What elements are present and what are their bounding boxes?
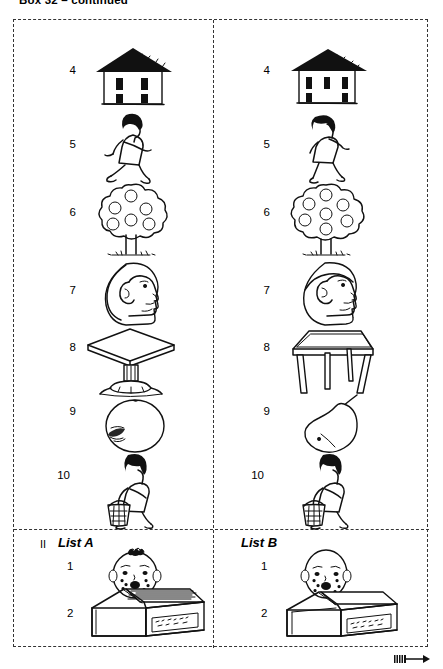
head-profile-icon [96,260,172,330]
list-item: 7 [14,260,213,330]
list-b-label: List B [241,535,277,550]
item-number: 5 [50,138,76,150]
house-icon [92,46,176,108]
item-number: 7 [244,284,270,296]
list-item: 4 [14,46,213,108]
running-woman-icon [100,112,170,184]
item-number: 7 [50,284,76,296]
apple-icon [102,393,168,455]
item-number: 6 [50,206,76,218]
fruit-tree-icon [88,182,174,260]
list-item: 9 [14,393,213,455]
head-profile-icon [293,260,367,330]
list-item: 7 [213,260,412,330]
list-item: 10 [14,451,213,529]
item-number: 4 [50,64,76,76]
woman-with-basket-icon [100,451,176,529]
matchbox-full-icon [86,586,210,644]
list-item: 6 [213,182,412,260]
item-number: 9 [50,405,76,417]
list-item: 10 [213,451,412,529]
section-two-list-a: II List A 1 2 [14,529,213,648]
item-number: 4 [244,64,270,76]
item-number: 10 [238,469,264,481]
list-a-label: List A [58,535,94,550]
fruit-tree-icon [281,182,371,260]
item-number: 6 [244,206,270,218]
continuation-arrow-icon [392,652,432,666]
item-number: 9 [244,405,270,417]
section-roman-numeral: II [40,538,46,550]
house-icon [285,46,371,108]
walking-woman-icon [295,112,365,184]
list-item: 9 [213,393,412,455]
item-number: 5 [244,138,270,150]
item-number: 8 [50,341,76,353]
section-two-list-b: List B 1 2 [213,529,412,648]
woman-with-basket-icon [295,451,371,529]
item-number: 10 [44,469,70,481]
matchbox-empty-icon [279,586,403,644]
list-item: 8 [213,325,412,397]
page-title: Box 32 – continued [19,0,128,6]
list-item: 4 [213,46,412,108]
list-item: 5 [14,112,213,184]
item-number: 2 [67,607,73,619]
column-list-a: 4 5 [14,20,213,529]
item-number: 8 [244,341,270,353]
pedestal-table-icon [84,325,178,397]
item-number: 2 [261,607,267,619]
item-number: 1 [67,560,73,572]
item-number: 1 [261,560,267,572]
pear-icon [297,393,369,455]
illustration-plate: 4 5 [13,19,428,647]
column-list-b: 4 5 [213,20,412,529]
table-icon [277,325,377,397]
list-item: 6 [14,182,213,260]
list-item: 5 [213,112,412,184]
list-item: 8 [14,325,213,397]
